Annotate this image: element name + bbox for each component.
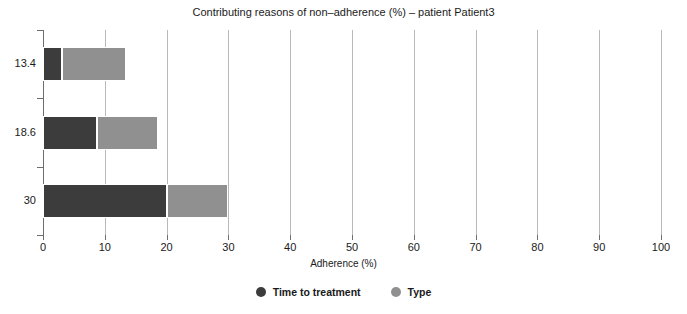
bar-segment-time-to-treatment[interactable]	[43, 116, 97, 150]
bar-segment-type[interactable]	[167, 184, 229, 218]
x-axis-tick	[167, 235, 168, 240]
gridline	[599, 30, 600, 235]
bar-segment-time-to-treatment[interactable]	[43, 47, 62, 81]
gridline	[476, 30, 477, 235]
x-axis-tick-label: 90	[584, 241, 614, 253]
bar-segment-time-to-treatment[interactable]	[43, 184, 167, 218]
legend-marker-icon	[256, 287, 266, 297]
x-axis-tick-label: 0	[28, 241, 58, 253]
x-axis-title: Adherence (%)	[0, 258, 687, 269]
x-axis-tick	[228, 235, 229, 240]
x-axis-tick	[414, 235, 415, 240]
y-axis-tick	[37, 98, 43, 99]
x-axis-tick-label: 80	[522, 241, 552, 253]
x-axis-tick-label: 60	[399, 241, 429, 253]
y-axis-tick-label: 18.6	[2, 126, 36, 138]
x-axis-tick	[43, 235, 44, 240]
bar-segment-type[interactable]	[62, 47, 126, 81]
x-axis-tick	[476, 235, 477, 240]
x-axis-tick-label: 100	[646, 241, 676, 253]
chart-title: Contributing reasons of non–adherence (%…	[0, 6, 687, 18]
legend-item[interactable]: Time to treatment	[256, 286, 361, 298]
chart-container: Contributing reasons of non–adherence (%…	[0, 0, 687, 314]
x-axis-tick	[599, 235, 600, 240]
y-axis-tick-label: 13.4	[2, 57, 36, 69]
y-axis-tick	[37, 30, 43, 31]
gridline	[290, 30, 291, 235]
y-axis-tick	[37, 167, 43, 168]
x-axis-tick	[661, 235, 662, 240]
gridline	[661, 30, 662, 235]
bar-segment-type[interactable]	[97, 116, 158, 150]
y-axis-tick-label: 30	[2, 194, 36, 206]
legend-item[interactable]: Type	[391, 286, 432, 298]
gridline	[414, 30, 415, 235]
x-axis-tick	[105, 235, 106, 240]
x-axis-tick	[537, 235, 538, 240]
legend-marker-icon	[391, 287, 401, 297]
x-axis-tick	[290, 235, 291, 240]
gridline	[228, 30, 229, 235]
x-axis-tick-label: 30	[213, 241, 243, 253]
x-axis-tick-label: 10	[90, 241, 120, 253]
x-axis-tick-label: 50	[337, 241, 367, 253]
chart-legend: Time to treatmentType	[0, 286, 687, 298]
x-axis-tick-label: 40	[275, 241, 305, 253]
x-axis-tick-label: 20	[152, 241, 182, 253]
gridline	[352, 30, 353, 235]
legend-label: Time to treatment	[273, 286, 361, 298]
gridline	[537, 30, 538, 235]
x-axis-tick-label: 70	[461, 241, 491, 253]
legend-label: Type	[408, 286, 432, 298]
x-axis-tick	[352, 235, 353, 240]
